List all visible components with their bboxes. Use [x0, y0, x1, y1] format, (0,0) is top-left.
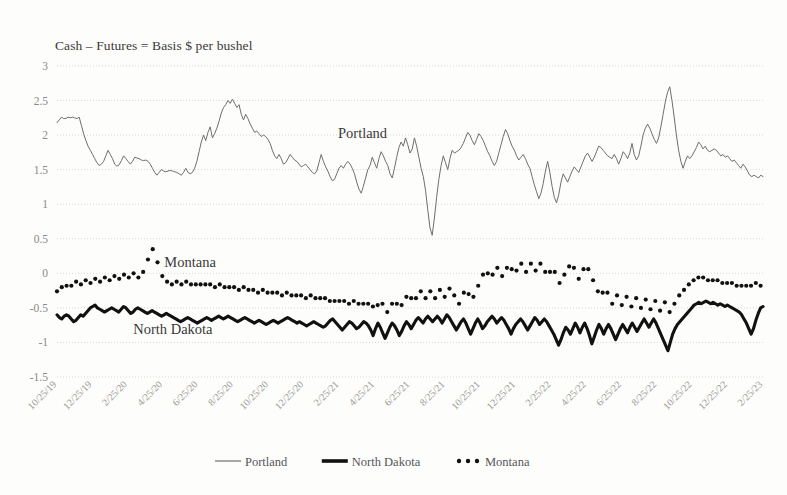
data-point	[74, 280, 78, 284]
series-annotation-portland: Portland	[338, 125, 388, 141]
legend-label: Portland	[245, 455, 288, 469]
data-point	[246, 288, 250, 292]
data-point	[596, 289, 600, 293]
data-point	[644, 298, 648, 302]
basis-chart-svg: 32.521.510.50-0.5-1-1.5 10/25/1912/25/19…	[0, 0, 787, 495]
data-point	[486, 271, 490, 275]
data-point	[84, 278, 88, 282]
data-point	[696, 275, 700, 279]
data-point	[69, 284, 73, 288]
data-point	[155, 260, 159, 264]
data-point	[428, 289, 432, 293]
data-point	[562, 273, 566, 277]
data-point	[534, 268, 538, 272]
data-point	[366, 302, 370, 306]
y-axis-tick-label: 0.5	[34, 233, 49, 245]
data-point	[471, 295, 475, 299]
data-point	[692, 278, 696, 282]
data-point	[222, 285, 226, 289]
legend-group: PortlandNorth DakotaMontana	[215, 455, 530, 469]
data-point	[519, 262, 523, 266]
legend-item-north-dakota[interactable]: North Dakota	[322, 455, 421, 469]
data-point	[419, 289, 423, 293]
data-point	[189, 282, 193, 286]
data-point	[285, 291, 289, 295]
data-point	[203, 282, 207, 286]
data-point	[60, 285, 64, 289]
data-point	[136, 275, 140, 279]
data-point	[184, 280, 188, 284]
y-axis-tick-label: -1	[38, 336, 48, 348]
data-point	[395, 302, 399, 306]
data-point	[103, 275, 107, 279]
data-point	[754, 281, 758, 285]
data-point	[524, 270, 528, 274]
data-point	[232, 285, 236, 289]
chart-page: Cash – Futures = Basis $ per bushel 32.5…	[0, 0, 787, 495]
legend-swatch-dotted-icon	[475, 459, 479, 463]
series-portland	[57, 87, 763, 236]
x-axis-tick-label: 2/25/21	[311, 379, 340, 408]
y-axis-tick-label: -1.5	[30, 371, 48, 383]
data-point	[749, 284, 753, 288]
series-group	[55, 87, 763, 351]
data-point	[500, 274, 504, 278]
data-point	[237, 288, 241, 292]
data-point	[179, 282, 183, 286]
data-point	[457, 302, 461, 306]
y-axis-tick-label: 0	[42, 267, 48, 279]
data-point	[423, 296, 427, 300]
data-point	[294, 293, 298, 297]
data-point	[672, 302, 676, 306]
chart-plot-area: 32.521.510.50-0.5-1-1.5 10/25/1912/25/19…	[0, 0, 787, 495]
data-point	[198, 282, 202, 286]
y-axis-tick-label: 3	[42, 60, 48, 72]
y-axis-tick-label: 1.5	[34, 164, 49, 176]
data-point	[356, 302, 360, 306]
data-point	[548, 270, 552, 274]
x-axis-tick-label: 12/25/19	[61, 379, 94, 412]
data-point	[333, 299, 337, 303]
data-point	[98, 280, 102, 284]
data-point	[715, 278, 719, 282]
data-point	[653, 299, 657, 303]
data-point	[538, 262, 542, 266]
data-point	[323, 296, 327, 300]
data-point	[639, 306, 643, 310]
data-point	[304, 296, 308, 300]
legend-item-montana[interactable]: Montana	[457, 455, 530, 469]
data-point	[467, 292, 471, 296]
data-point	[505, 266, 509, 270]
data-point	[495, 266, 499, 270]
data-point	[141, 270, 145, 274]
data-point	[213, 285, 217, 289]
legend-swatch-dotted-icon	[457, 459, 461, 463]
data-point	[131, 271, 135, 275]
data-point	[266, 291, 270, 295]
data-point	[510, 267, 514, 271]
x-axis-tick-label: 10/25/22	[661, 379, 694, 412]
data-point	[117, 277, 121, 281]
data-point	[270, 291, 274, 295]
data-point	[739, 284, 743, 288]
data-point	[289, 293, 293, 297]
data-point	[342, 299, 346, 303]
data-point	[64, 284, 68, 288]
data-point	[624, 295, 628, 299]
data-point	[376, 303, 380, 307]
x-axis-ticks-group: 10/25/1912/25/192/25/204/25/206/25/208/2…	[25, 379, 764, 412]
x-axis-tick-label: 12/25/21	[484, 379, 517, 412]
data-point	[567, 264, 571, 268]
x-axis-tick-label: 8/25/22	[629, 379, 658, 408]
x-axis-tick-label: 10/25/21	[449, 379, 482, 412]
data-point	[122, 273, 126, 277]
legend-item-portland[interactable]: Portland	[215, 455, 288, 469]
data-point	[668, 310, 672, 314]
data-point	[553, 270, 557, 274]
x-axis-tick-label: 2/25/23	[735, 379, 764, 408]
legend-label: Montana	[485, 455, 530, 469]
data-point	[634, 296, 638, 300]
data-point	[601, 291, 605, 295]
x-axis-tick-label: 4/25/22	[559, 379, 588, 408]
data-point	[648, 307, 652, 311]
